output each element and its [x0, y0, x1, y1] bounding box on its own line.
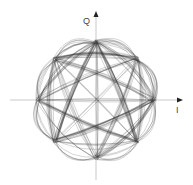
q-axis-label: Q — [83, 17, 90, 26]
trajectory-paths — [33, 38, 157, 160]
i-axis-arrow-icon — [177, 98, 183, 103]
iq-diagram — [0, 0, 193, 185]
i-axis-label: I — [176, 106, 179, 115]
q-axis-arrow-icon — [94, 11, 99, 17]
trajectories — [33, 38, 157, 160]
